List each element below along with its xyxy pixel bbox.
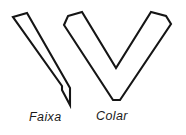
line-drawing-illustration [0,0,186,135]
caption-colar: Colar [96,110,128,123]
faixa-shape [13,13,70,105]
caption-faixa: Faixa [29,111,62,124]
figure-canvas: Faixa Colar [0,0,186,135]
colar-shape [64,12,171,100]
